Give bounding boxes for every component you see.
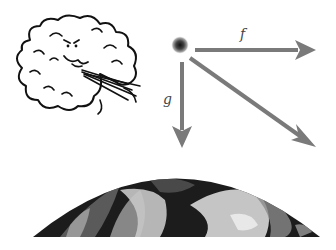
wind-cloud-icon (17, 15, 140, 114)
label-g: g (163, 92, 172, 106)
ball-icon (171, 36, 189, 54)
force-f-arrow (195, 40, 316, 60)
diagram-canvas (0, 0, 336, 250)
earth-icon (33, 178, 320, 237)
label-f: f (240, 27, 245, 41)
resultant-force-arrow (190, 58, 316, 147)
force-g-arrow (172, 62, 192, 148)
physics-diagram: f g (0, 0, 336, 250)
